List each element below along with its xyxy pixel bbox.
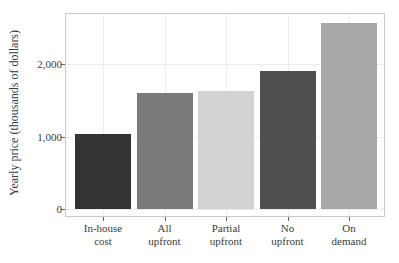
x-tick-label-line: demand (314, 235, 384, 248)
y-tick-label: 0 (57, 203, 63, 215)
x-tick-label-line: In-house (68, 222, 138, 235)
gridline-horizontal (66, 209, 384, 210)
plot-panel (65, 13, 385, 217)
x-tick-label-line: Partial (191, 222, 261, 235)
y-tick-label: 1,000 (37, 131, 62, 143)
bar-partial-upfront (198, 91, 254, 209)
x-tick-mark (226, 217, 227, 221)
x-tick-label-line: cost (68, 235, 138, 248)
x-tick-label-line: On (314, 222, 384, 235)
x-tick-mark (165, 217, 166, 221)
x-tick-label-line: All (130, 222, 200, 235)
x-tick-label: Ondemand (314, 222, 384, 248)
bar-on-demand (321, 23, 377, 209)
y-axis-title: Yearly price (thousands of dollars) (7, 30, 22, 196)
x-tick-mark (103, 217, 104, 221)
x-tick-label: Allupfront (130, 222, 200, 248)
x-tick-label-line: upfront (130, 235, 200, 248)
x-tick-mark (349, 217, 350, 221)
y-tick-label: 2,000 (37, 58, 62, 70)
x-tick-label: In-housecost (68, 222, 138, 248)
x-tick-mark (288, 217, 289, 221)
x-tick-label: Partialupfront (191, 222, 261, 248)
x-tick-label-line: upfront (191, 235, 261, 248)
bar-in-house-cost (75, 134, 131, 209)
x-tick-label-line: upfront (253, 235, 323, 248)
bar-no-upfront (260, 71, 316, 209)
x-tick-label: Noupfront (253, 222, 323, 248)
x-tick-label-line: No (253, 222, 323, 235)
bar-all-upfront (137, 93, 193, 209)
